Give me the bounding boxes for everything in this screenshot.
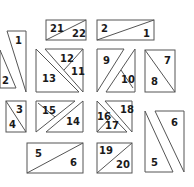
label-15: 15 xyxy=(42,105,56,116)
piece-group-3-4: 3 4 xyxy=(6,101,26,132)
piece-group-7-8: 7 8 xyxy=(145,50,175,92)
piece-group-16-17-18: 16 17 18 xyxy=(97,101,134,132)
label-3: 3 xyxy=(16,104,23,115)
label-2-top: 2 xyxy=(101,23,108,34)
piece-group-9-10: 9 10 xyxy=(97,49,135,92)
label-12: 12 xyxy=(60,53,74,64)
piece-group-1-2: 1 2 xyxy=(0,31,26,92)
piece-group-2-1-top: 2 1 xyxy=(97,20,154,40)
label-19: 19 xyxy=(99,145,113,156)
label-10: 10 xyxy=(121,74,135,85)
label-6-small: 6 xyxy=(70,157,77,168)
label-21: 21 xyxy=(50,23,64,34)
piece-group-14-15: 15 14 xyxy=(36,101,83,132)
label-2: 2 xyxy=(2,75,9,86)
piece-group-5-6-tall: 6 5 xyxy=(145,111,184,172)
label-14: 14 xyxy=(66,116,80,127)
label-1: 1 xyxy=(15,35,22,46)
label-1-top: 1 xyxy=(143,28,150,39)
label-6-tall: 6 xyxy=(171,117,178,128)
label-4: 4 xyxy=(9,119,16,130)
piece-group-19-20: 19 20 xyxy=(97,143,132,173)
puzzle-diagram: 1 2 21 22 2 1 12 11 13 9 10 7 8 xyxy=(0,0,194,187)
label-18: 18 xyxy=(120,104,134,115)
piece-group-21-22: 21 22 xyxy=(46,20,86,40)
label-11: 11 xyxy=(71,66,85,77)
label-13: 13 xyxy=(42,73,56,84)
label-5-small: 5 xyxy=(35,148,42,159)
label-9: 9 xyxy=(103,55,110,66)
label-17: 17 xyxy=(105,120,119,131)
piece-group-5-6-small: 5 6 xyxy=(27,143,83,173)
label-8: 8 xyxy=(151,76,158,87)
label-5-tall: 5 xyxy=(151,157,158,168)
label-20: 20 xyxy=(116,159,130,170)
piece-group-11-12-13: 12 11 13 xyxy=(36,49,85,92)
label-22: 22 xyxy=(72,28,86,39)
label-7: 7 xyxy=(164,55,171,66)
